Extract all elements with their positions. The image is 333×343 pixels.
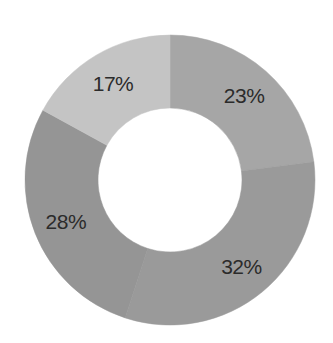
donut-slice-2 <box>25 110 148 318</box>
data-label-1: 32% <box>221 255 262 278</box>
donut-slice-1 <box>125 162 315 325</box>
donut-chart: 23%32%28%17% <box>0 0 333 343</box>
data-label-3: 17% <box>93 72 134 95</box>
data-label-0: 23% <box>224 84 265 107</box>
data-label-2: 28% <box>46 210 87 233</box>
donut-slices <box>25 35 315 325</box>
